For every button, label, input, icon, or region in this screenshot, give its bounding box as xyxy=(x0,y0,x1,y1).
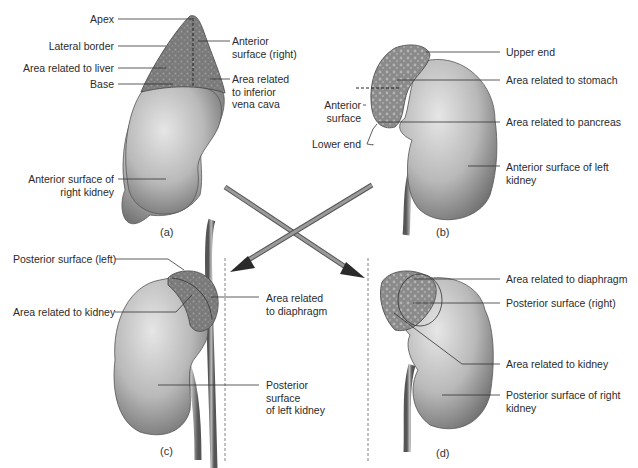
label-line: Area related xyxy=(266,292,327,305)
label-line: to diaphragm xyxy=(266,305,327,318)
label-line: Area related xyxy=(232,73,289,86)
label-posterior-left-kidney: Posterior surface of left kidney xyxy=(266,379,325,417)
label-line: kidney xyxy=(506,402,620,415)
caption-a: (a) xyxy=(160,226,173,238)
caption-c: (c) xyxy=(160,445,173,457)
label-line: surface xyxy=(324,112,361,125)
label-line: Posterior surface of right xyxy=(506,389,620,402)
label-area-diaphragm: Area related to diaphragm xyxy=(266,292,327,317)
crossing-arrows xyxy=(225,185,372,278)
label-upper-end: Upper end xyxy=(506,46,555,59)
label-apex: Apex xyxy=(90,13,114,26)
label-line: Anterior xyxy=(232,35,297,48)
label-area-kidney: Area related to kidney xyxy=(13,306,115,319)
label-posterior-surface-left: Posterior surface (left) xyxy=(13,253,116,266)
label-area-ivc: Area related to inferior vena cava xyxy=(232,73,289,111)
label-line: right kidney xyxy=(28,186,114,199)
label-area-stomach: Area related to stomach xyxy=(506,74,617,87)
label-line: of left kidney xyxy=(266,404,325,417)
label-line: vena cava xyxy=(232,98,289,111)
label-line: surface (right) xyxy=(232,48,297,61)
label-lateral-border: Lateral border xyxy=(49,40,114,53)
panel-b-kidney xyxy=(400,59,497,235)
panel-d-suprarenal-gland xyxy=(380,271,442,331)
label-base: Base xyxy=(90,78,114,91)
label-posterior-surface-right: Posterior surface (right) xyxy=(506,297,616,310)
label-line: Posterior xyxy=(266,379,325,392)
label-anterior-right-kidney: Anterior surface of right kidney xyxy=(28,173,114,198)
caption-b: (b) xyxy=(436,226,449,238)
label-anterior-surface: Anterior surface xyxy=(324,99,361,124)
label-area-diaphragm-d: Area related to diaphragm xyxy=(506,273,627,286)
label-lower-end: Lower end xyxy=(312,138,361,151)
label-anterior-left-kidney: Anterior surface of left kidney xyxy=(506,161,609,186)
label-line: Anterior surface of left xyxy=(506,161,609,174)
label-line: Anterior surface of xyxy=(28,173,114,186)
label-area-liver: Area related to liver xyxy=(23,62,114,75)
caption-d: (d) xyxy=(436,447,449,459)
label-line: surface xyxy=(266,392,325,405)
label-line: kidney xyxy=(506,174,609,187)
label-line: to inferior xyxy=(232,86,289,99)
label-anterior-surface-right: Anterior surface (right) xyxy=(232,35,297,60)
label-line: Anterior xyxy=(324,99,361,112)
label-area-pancreas: Area related to pancreas xyxy=(506,116,621,129)
panel-a-suprarenal-gland xyxy=(141,16,225,93)
label-area-kidney-d: Area related to kidney xyxy=(506,358,608,371)
label-posterior-right-kidney: Posterior surface of right kidney xyxy=(506,389,620,414)
